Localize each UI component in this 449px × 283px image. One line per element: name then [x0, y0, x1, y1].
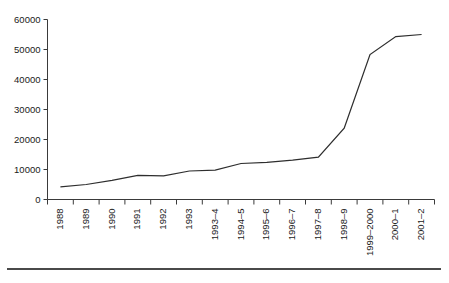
y-axis-tick-label: 60000: [14, 14, 40, 25]
x-axis-tick-label: 1993–4: [209, 209, 220, 241]
figure: 0100002000030000400005000060000 19881989…: [0, 0, 449, 283]
y-axis-tick-label: 20000: [14, 134, 40, 145]
x-axis-tick-label: 1998–9: [338, 209, 349, 241]
x-axis-tick-label: 2001–2: [415, 209, 426, 241]
y-axis-tick-label: 30000: [14, 104, 40, 115]
x-axis-tick-labels: 1988198919901991199219931993–41994–51995…: [54, 209, 426, 257]
x-axis-tick-label: 1989: [80, 209, 91, 230]
y-axis-tick-label: 40000: [14, 74, 40, 85]
x-axis-tick-label: 1996–7: [286, 209, 297, 241]
y-axis-tick-label: 10000: [14, 164, 40, 175]
line-chart: 0100002000030000400005000060000 19881989…: [0, 0, 449, 258]
x-axis-tick-label: 1992: [157, 209, 168, 230]
x-axis-tick-label: 1994–5: [235, 209, 246, 241]
data-series-line: [60, 35, 421, 187]
x-axis-tick-label: 2000–1: [389, 209, 400, 241]
x-axis-tick-marks: [48, 200, 435, 205]
chart-plot-area: 0100002000030000400005000060000 19881989…: [0, 0, 449, 258]
y-axis-tick-label: 0: [35, 194, 40, 205]
x-axis-tick-label: 1999–2000: [364, 209, 375, 257]
x-axis-tick-label: 1995–6: [260, 209, 271, 241]
y-axis-tick-label: 50000: [14, 44, 40, 55]
y-axis-tick-marks: [44, 20, 48, 200]
x-axis-tick-label: 1988: [54, 209, 65, 230]
x-axis-tick-label: 1991: [131, 209, 142, 230]
x-axis-tick-label: 1993: [183, 209, 194, 230]
x-axis-tick-label: 1990: [106, 209, 117, 230]
y-axis-tick-labels: 0100002000030000400005000060000: [14, 14, 40, 205]
x-axis-tick-label: 1997–8: [312, 209, 323, 241]
caption-divider: [7, 268, 441, 270]
